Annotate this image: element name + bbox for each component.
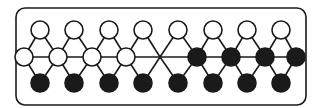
bottom-row-filled-node: [169, 74, 187, 92]
middle-row-open-node: [15, 48, 33, 66]
bottom-row-filled-node: [204, 74, 222, 92]
middle-row-open-node: [117, 48, 135, 66]
top-row-open-node: [31, 21, 49, 39]
top-row-open-node: [204, 21, 222, 39]
middle-row-open-node: [83, 48, 101, 66]
middle-row-open-node: [49, 48, 67, 66]
top-row-open-node: [100, 21, 118, 39]
middle-row-filled-node: [188, 48, 206, 66]
bottom-row-filled-node: [65, 74, 83, 92]
bottom-row-filled-node: [31, 74, 49, 92]
bottom-row-filled-node: [100, 74, 118, 92]
top-row-open-node: [169, 21, 187, 39]
middle-row-filled-node: [256, 48, 274, 66]
bottom-row-filled-node: [238, 74, 256, 92]
middle-row-filled-node: [222, 48, 240, 66]
bottom-row-filled-node: [134, 74, 152, 92]
domain-wall-lattice-diagram: [0, 0, 320, 108]
middle-row-filled-node: [287, 48, 305, 66]
top-row-open-node: [272, 21, 290, 39]
top-row-open-node: [65, 21, 83, 39]
top-row-open-node: [134, 21, 152, 39]
bottom-row-filled-node: [272, 74, 290, 92]
top-row-open-node: [238, 21, 256, 39]
